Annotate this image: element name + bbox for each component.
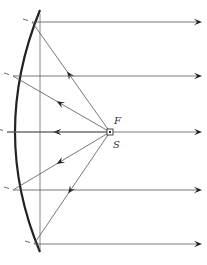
ray-5-incident-arrow <box>68 185 75 193</box>
ray-2-incident <box>13 76 110 132</box>
ray-1-incident <box>32 22 110 132</box>
ray-4-incident-arrow <box>57 157 66 164</box>
source-point-inner <box>109 131 111 133</box>
ray-1-normal-tick <box>23 19 28 21</box>
ray-5-normal-tick <box>25 241 30 243</box>
ray-3-normal-tick <box>0 129 3 131</box>
ray-4-incident <box>13 132 110 190</box>
diagram-canvas: F S <box>0 0 207 265</box>
parabolic-mirror <box>15 10 40 252</box>
source-label: S <box>113 139 120 150</box>
ray-4-normal-tick <box>4 187 9 189</box>
focus-label: F <box>113 115 122 126</box>
parabolic-mirror-diagram: F S <box>0 0 207 265</box>
ray-2-incident-arrow <box>57 101 66 108</box>
ray-2-normal-tick <box>4 73 9 75</box>
ray-5-incident <box>34 132 110 244</box>
